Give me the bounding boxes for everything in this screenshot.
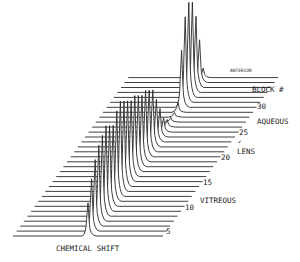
lens-arrow: ↙ [238,137,242,144]
block-tick-5: 5 [166,227,171,236]
anterior-label: ANTERIOR [230,68,252,73]
lens-label: LENS [237,147,256,156]
block-tick-25: 25 [239,128,248,137]
aqueous-label: AQUEOUS [257,117,289,126]
block-tick-30: 30 [257,102,267,111]
x-axis-label: CHEMICAL SHIFT [56,244,120,253]
block-tick-10: 10 [185,203,195,212]
spectra-traces [13,2,278,238]
waterfall-plot: CHEMICAL SHIFT ANTERIOR BLOCK # AQUEOUS … [0,0,300,262]
vitreous-label: VITREOUS [200,196,237,205]
block-axis-label: BLOCK # [252,85,284,94]
block-tick-15: 15 [203,178,212,187]
block-tick-20: 20 [221,153,231,162]
